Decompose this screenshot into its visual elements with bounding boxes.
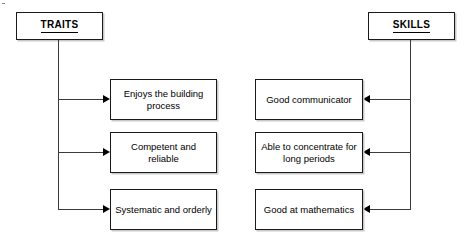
traits-trunk-line xyxy=(58,40,59,210)
trait-box-3[interactable]: Systematic and orderly xyxy=(110,189,217,230)
skills-arrowhead-1 xyxy=(363,95,370,103)
skills-header-box[interactable]: SKILLS xyxy=(368,12,455,40)
skill-box-3[interactable]: Good at mathematics xyxy=(255,189,363,230)
trait-box-1-label: Enjoys the building process xyxy=(115,88,212,111)
diagram-canvas: TRAITS Enjoys the building process Compe… xyxy=(0,0,468,237)
traits-header-label: TRAITS xyxy=(41,19,79,32)
skills-trunk-line xyxy=(410,40,411,210)
skill-box-1-label: Good communicator xyxy=(266,94,352,106)
skill-box-2[interactable]: Able to concentrate for long periods xyxy=(255,132,363,173)
trait-box-3-label: Systematic and orderly xyxy=(115,204,212,216)
trait-box-2[interactable]: Competent and reliable xyxy=(110,132,217,173)
skills-header-label: SKILLS xyxy=(393,19,430,32)
skills-arrowhead-3 xyxy=(363,205,370,213)
traits-arrowhead-1 xyxy=(103,95,110,103)
skill-box-3-label: Good at mathematics xyxy=(264,204,354,216)
skills-branch-line-3 xyxy=(370,209,411,210)
trait-box-1[interactable]: Enjoys the building process xyxy=(110,79,217,120)
traits-branch-line-1 xyxy=(58,99,105,100)
traits-arrowhead-2 xyxy=(103,148,110,156)
traits-arrowhead-3 xyxy=(103,205,110,213)
traits-header-box[interactable]: TRAITS xyxy=(16,12,103,40)
skills-branch-line-1 xyxy=(370,99,411,100)
scan-artifact-tick xyxy=(2,3,5,4)
trait-box-2-label: Competent and reliable xyxy=(115,141,212,164)
skill-box-1[interactable]: Good communicator xyxy=(255,79,363,120)
traits-branch-line-3 xyxy=(58,209,105,210)
skills-branch-line-2 xyxy=(370,152,411,153)
skill-box-2-label: Able to concentrate for long periods xyxy=(260,141,358,164)
skills-arrowhead-2 xyxy=(363,148,370,156)
traits-branch-line-2 xyxy=(58,152,105,153)
